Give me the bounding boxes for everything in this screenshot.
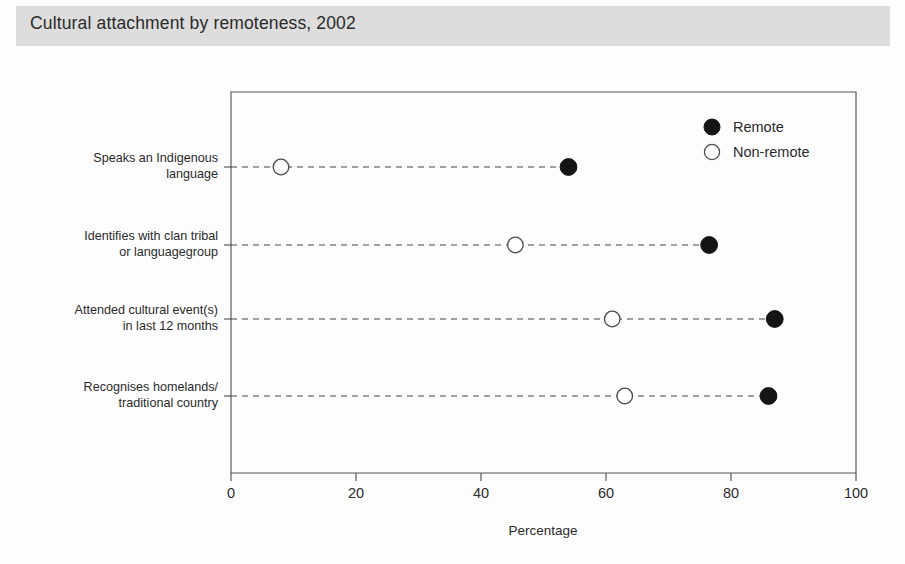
legend-label-non-remote: Non-remote <box>733 144 810 160</box>
dot-plot-chart: 0 20 40 60 80 100 Percentage Speaks an I… <box>0 0 905 564</box>
data-point-non-remote[interactable] <box>508 237 524 253</box>
figure-container: Cultural attachment by remoteness, 2002 … <box>0 0 905 564</box>
data-row <box>231 159 577 176</box>
data-point-remote[interactable] <box>701 237 718 254</box>
data-point-remote[interactable] <box>766 311 783 328</box>
legend-label-remote: Remote <box>733 119 784 135</box>
category-label-2-line2: or languagegroup <box>119 245 218 259</box>
legend-marker-non-remote <box>704 144 719 159</box>
x-tick-label-60: 60 <box>598 485 614 501</box>
data-point-remote[interactable] <box>560 159 577 176</box>
data-point-non-remote[interactable] <box>617 388 633 404</box>
x-tick-label-100: 100 <box>844 485 868 501</box>
x-axis-title: Percentage <box>508 523 577 538</box>
category-label-4-line2: traditional country <box>119 396 219 410</box>
x-tick-label-40: 40 <box>473 485 489 501</box>
data-point-remote[interactable] <box>760 388 777 405</box>
data-row <box>231 237 718 254</box>
data-rows <box>231 159 783 405</box>
data-point-non-remote[interactable] <box>273 159 289 175</box>
category-label-3-line1: Attended cultural event(s) <box>74 303 218 317</box>
category-label-1-line2: language <box>166 167 218 181</box>
category-label-3-line2: in last 12 months <box>123 319 218 333</box>
x-tick-label-20: 20 <box>348 485 364 501</box>
data-row <box>231 311 783 328</box>
x-tick-label-80: 80 <box>723 485 739 501</box>
x-axis-ticks <box>231 473 856 481</box>
legend-marker-remote <box>704 119 720 135</box>
category-label-1-line1: Speaks an Indigenous <box>93 151 218 165</box>
category-label-4-line1: Recognises homelands/ <box>84 380 219 394</box>
y-axis-ticks <box>224 167 231 396</box>
legend: Remote Non-remote <box>704 119 810 160</box>
data-point-non-remote[interactable] <box>604 311 620 327</box>
y-axis-category-labels: Speaks an Indigenous language Identifies… <box>74 151 218 410</box>
data-row <box>231 388 777 405</box>
category-label-2-line1: Identifies with clan tribal <box>84 229 218 243</box>
x-tick-label-0: 0 <box>227 485 235 501</box>
